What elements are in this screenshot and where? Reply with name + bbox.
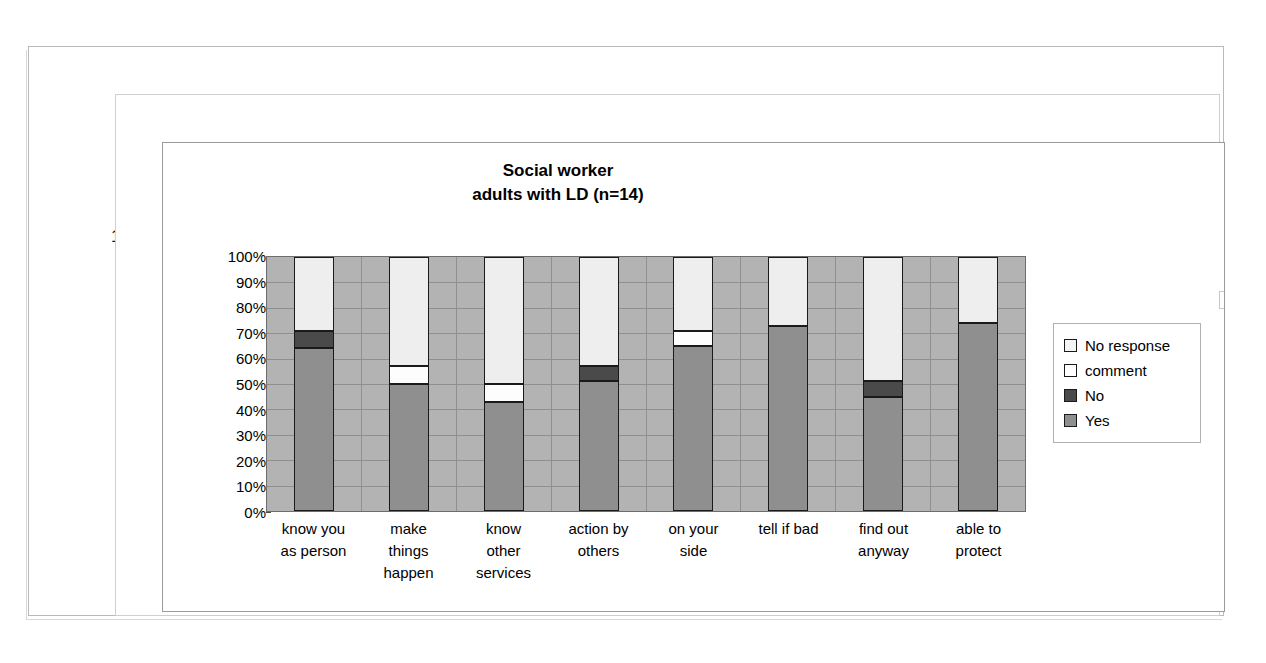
y-axis-tick-label: 80% [204, 299, 266, 316]
legend-swatch-icon [1064, 364, 1077, 377]
bar-segment[interactable] [294, 348, 334, 511]
legend-item[interactable]: Yes [1064, 408, 1192, 433]
stacked-bar[interactable] [484, 257, 524, 511]
stacked-bar[interactable] [579, 257, 619, 511]
x-axis-category-label: on yourside [646, 518, 741, 583]
bar-segment[interactable] [484, 257, 524, 384]
y-axis-tick-label: 30% [204, 427, 266, 444]
label-line: anyway [836, 540, 931, 562]
label-line: things [361, 540, 456, 562]
label-line: know [456, 518, 551, 540]
stacked-bar[interactable] [863, 257, 903, 511]
y-axis-tick-label: 10% [204, 478, 266, 495]
bar-series-group [267, 257, 1025, 511]
x-axis-category-label: makethingshappen [361, 518, 456, 583]
label-line: tell if bad [741, 518, 836, 540]
bar-segment[interactable] [673, 346, 713, 511]
label-line: on your [646, 518, 741, 540]
bar-slot [552, 257, 647, 511]
legend-swatch-icon [1064, 389, 1077, 402]
bar-segment[interactable] [863, 381, 903, 396]
bar-segment[interactable] [958, 323, 998, 511]
label-line: services [456, 562, 551, 584]
bar-segment[interactable] [863, 397, 903, 511]
y-axis-tick-label: 90% [204, 273, 266, 290]
x-axis-category-label: action byothers [551, 518, 646, 583]
y-axis-tick-label: 0% [204, 504, 266, 521]
bar-segment[interactable] [768, 257, 808, 326]
y-axis: 100%90%80%70%60%50%40%30%20%10%0% [197, 256, 266, 512]
bar-segment[interactable] [484, 402, 524, 511]
bar-segment[interactable] [673, 257, 713, 331]
bar-segment[interactable] [294, 257, 334, 331]
stacked-bar[interactable] [958, 257, 998, 511]
x-axis-category-label: know youas person [266, 518, 361, 583]
x-axis-category-label: tell if bad [741, 518, 836, 583]
chart-subtitle: adults with LD (n=14) [163, 183, 953, 207]
chart-object[interactable]: Social worker adults with LD (n=14) 100%… [162, 142, 1225, 612]
bar-segment[interactable] [579, 257, 619, 366]
bar-slot [267, 257, 362, 511]
stacked-bar[interactable] [294, 257, 334, 511]
legend-swatch-icon [1064, 339, 1077, 352]
label-line: side [646, 540, 741, 562]
bar-slot [931, 257, 1025, 511]
bar-segment[interactable] [484, 384, 524, 402]
scanned-page: 1 Social worker adults with LD (n=14) 10… [28, 46, 1224, 616]
bar-segment[interactable] [768, 326, 808, 511]
label-line: others [551, 540, 646, 562]
chart-title-block: Social worker adults with LD (n=14) [163, 159, 953, 207]
bar-segment[interactable] [389, 384, 429, 511]
bar-segment[interactable] [579, 366, 619, 381]
bar-slot [647, 257, 742, 511]
y-axis-tick-label: 50% [204, 376, 266, 393]
label-line: protect [931, 540, 1026, 562]
bar-segment[interactable] [294, 331, 334, 349]
bar-segment[interactable] [389, 366, 429, 384]
legend-item-label: No [1085, 387, 1104, 404]
y-axis-tick-label: 40% [204, 401, 266, 418]
chart-legend[interactable]: No responsecommentNoYes [1053, 323, 1201, 443]
legend-item[interactable]: No [1064, 383, 1192, 408]
x-axis-labels: know youas personmakethingshappenknowoth… [266, 518, 1026, 583]
x-axis-category-label: knowotherservices [456, 518, 551, 583]
legend-item-label: Yes [1085, 412, 1109, 429]
bar-segment[interactable] [958, 257, 998, 323]
legend-item-label: comment [1085, 362, 1147, 379]
y-axis-tick-mark [266, 512, 271, 513]
label-line: able to [931, 518, 1026, 540]
y-axis-tick-label: 100% [204, 248, 266, 265]
label-line: know you [266, 518, 361, 540]
plot-area [266, 256, 1026, 512]
x-axis-category-label: able toprotect [931, 518, 1026, 583]
stacked-bar[interactable] [673, 257, 713, 511]
bar-segment[interactable] [389, 257, 429, 366]
stacked-bar[interactable] [389, 257, 429, 511]
page-edge-tab [1219, 291, 1224, 309]
label-line: happen [361, 562, 456, 584]
chart-title: Social worker [163, 159, 953, 183]
bar-slot [457, 257, 552, 511]
legend-item[interactable]: comment [1064, 358, 1192, 383]
y-axis-tick-label: 20% [204, 452, 266, 469]
bar-segment[interactable] [863, 257, 903, 381]
y-axis-tick-label: 70% [204, 324, 266, 341]
bar-slot [836, 257, 931, 511]
bar-segment[interactable] [579, 381, 619, 511]
legend-item[interactable]: No response [1064, 333, 1192, 358]
legend-swatch-icon [1064, 414, 1077, 427]
bar-slot [362, 257, 457, 511]
label-line: as person [266, 540, 361, 562]
y-axis-tick-label: 60% [204, 350, 266, 367]
stacked-bar[interactable] [768, 257, 808, 511]
bar-slot [741, 257, 836, 511]
bar-segment[interactable] [673, 331, 713, 346]
label-line: find out [836, 518, 931, 540]
label-line: other [456, 540, 551, 562]
legend-item-label: No response [1085, 337, 1170, 354]
label-line: action by [551, 518, 646, 540]
label-line: make [361, 518, 456, 540]
x-axis-category-label: find outanyway [836, 518, 931, 583]
